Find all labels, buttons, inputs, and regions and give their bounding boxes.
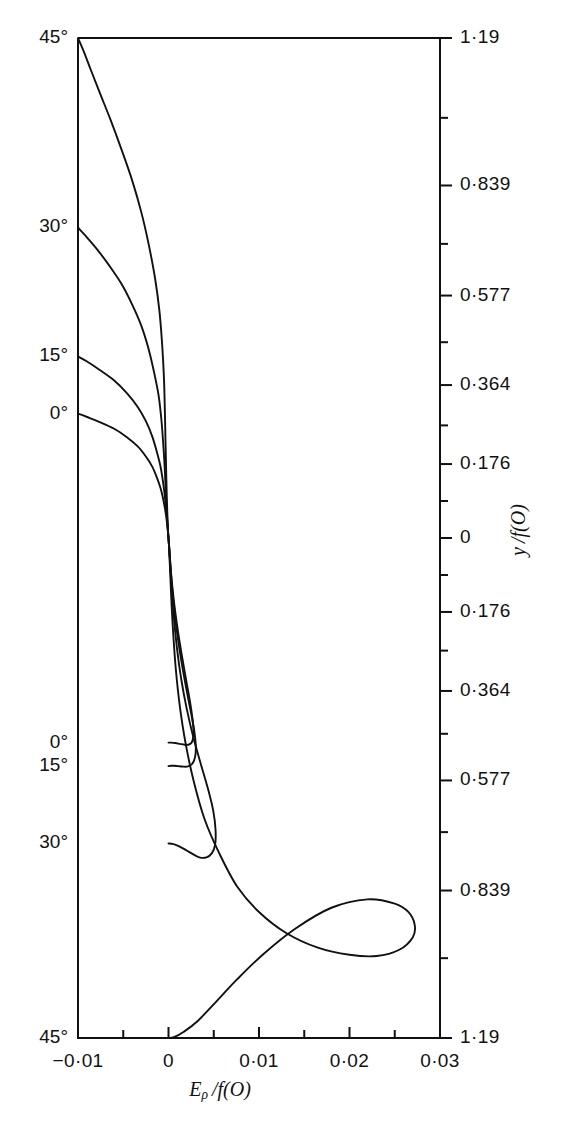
y-tick-label: 0·176 <box>460 600 511 622</box>
y-tick-label: 0 <box>460 526 471 548</box>
x-tick-label: 0·02 <box>316 1050 384 1072</box>
curve-angle-label: 15° <box>0 754 68 776</box>
curve-angle-label: 15° <box>0 344 68 366</box>
x-axis-title: Eρ /f(O) <box>0 1078 440 1103</box>
x-tick-label: 0·01 <box>225 1050 293 1072</box>
chart-canvas <box>0 0 579 1130</box>
y-tick-label: 0·839 <box>460 173 511 195</box>
curve-angle-label: 30° <box>0 831 68 853</box>
y-axis-title: y /f(O) <box>507 504 530 556</box>
curve-angle-label: 0° <box>0 402 68 424</box>
curve-angle-label: 0° <box>0 731 68 753</box>
chart-background <box>0 0 579 1130</box>
y-tick-label: 0·176 <box>460 452 511 474</box>
x-tick-label: 0 <box>135 1050 203 1072</box>
y-tick-label: 0·364 <box>460 373 511 395</box>
curve-angle-label: 45° <box>0 1026 68 1048</box>
curve-angle-label: 45° <box>0 26 68 48</box>
figure-panel: Eρ /f(O) y /f(O) −0·0100·010·020·03 1·19… <box>0 0 579 1130</box>
curve-angle-label: 30° <box>0 215 68 237</box>
y-tick-label: 0·577 <box>460 768 511 790</box>
x-tick-label: −0·01 <box>44 1050 112 1072</box>
y-tick-label: 0·364 <box>460 679 511 701</box>
y-tick-label: 1·19 <box>460 1026 500 1048</box>
y-tick-label: 1·19 <box>460 26 500 48</box>
y-tick-label: 0·839 <box>460 879 511 901</box>
x-tick-label: 0·03 <box>406 1050 474 1072</box>
y-tick-label: 0·577 <box>460 284 511 306</box>
